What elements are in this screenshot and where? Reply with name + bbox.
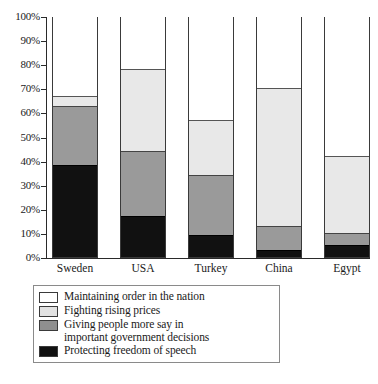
bar-segment[interactable] xyxy=(53,16,97,96)
y-axis-tick xyxy=(41,234,47,235)
y-axis-tick-label: 0% xyxy=(0,252,40,263)
bar-segment[interactable] xyxy=(189,235,233,257)
y-axis-tick-label: 90% xyxy=(0,35,40,46)
y-axis-tick-label: 50% xyxy=(0,132,40,143)
legend-label-line1: Maintaining order in the nation xyxy=(64,290,205,302)
bar-stack[interactable] xyxy=(188,17,234,258)
x-axis-line xyxy=(46,258,370,259)
bar-segment[interactable] xyxy=(325,233,369,245)
chart-legend: Maintaining order in the nationFighting … xyxy=(33,285,280,363)
bar-segment[interactable] xyxy=(121,151,165,216)
legend-swatch-icon xyxy=(39,306,58,317)
legend-item[interactable]: Fighting rising prices xyxy=(39,304,274,317)
y-axis-tick xyxy=(41,210,47,211)
x-axis-label-egypt: Egypt xyxy=(310,262,378,275)
bar-segment[interactable] xyxy=(257,250,301,257)
bar-segment[interactable] xyxy=(325,245,369,257)
y-axis-tick-label: 80% xyxy=(0,59,40,70)
y-axis-tick-label: 40% xyxy=(0,156,40,167)
stacked-bar-chart: 100%90%80%70%60%50%40%30%20%10%0% Sweden… xyxy=(0,0,378,278)
legend-item[interactable]: Maintaining order in the nation xyxy=(39,290,274,303)
legend-item[interactable]: Giving people more say inimportant gover… xyxy=(39,318,274,343)
y-axis-tick xyxy=(41,186,47,187)
bar-segment[interactable] xyxy=(257,16,301,88)
legend-label-line1: Protecting freedom of speech xyxy=(64,344,196,356)
legend-swatch-icon xyxy=(39,346,58,357)
x-axis-label-sweden: Sweden xyxy=(38,262,112,275)
legend-swatch-icon xyxy=(39,292,58,303)
legend-label: Maintaining order in the nation xyxy=(64,290,205,303)
legend-label: Giving people more say inimportant gover… xyxy=(64,318,209,343)
y-axis-tick xyxy=(41,138,47,139)
bar-segment[interactable] xyxy=(53,165,97,257)
bar-segment[interactable] xyxy=(325,156,369,233)
y-axis-tick xyxy=(41,17,47,18)
y-axis-tick xyxy=(41,89,47,90)
y-axis-tick-label: 30% xyxy=(0,180,40,191)
y-axis-tick-label: 100% xyxy=(0,11,40,22)
bar-segment[interactable] xyxy=(189,16,233,120)
legend-label-line2: important government decisions xyxy=(64,331,209,344)
y-axis-tick-label: 60% xyxy=(0,107,40,118)
bar-segment[interactable] xyxy=(53,106,97,165)
bar-segment[interactable] xyxy=(189,120,233,175)
bar-segment[interactable] xyxy=(189,175,233,235)
y-axis-tick xyxy=(41,258,47,259)
bar-segment[interactable] xyxy=(121,216,165,257)
x-axis-label-usa: USA xyxy=(106,262,180,275)
legend-item[interactable]: Protecting freedom of speech xyxy=(39,344,274,357)
bar-segment[interactable] xyxy=(121,69,165,151)
bar-segment[interactable] xyxy=(325,16,369,156)
y-axis-tick xyxy=(41,65,47,66)
legend-label: Fighting rising prices xyxy=(64,304,160,317)
legend-swatch-icon xyxy=(39,320,58,331)
y-axis-tick xyxy=(41,113,47,114)
y-axis-tick-label: 10% xyxy=(0,228,40,239)
bar-stack[interactable] xyxy=(324,17,370,258)
y-axis-tick-label: 20% xyxy=(0,204,40,215)
legend-label-line1: Fighting rising prices xyxy=(64,304,160,316)
bar-stack[interactable] xyxy=(120,17,166,258)
legend-label: Protecting freedom of speech xyxy=(64,344,196,357)
x-axis-label-china: China xyxy=(242,262,316,275)
y-axis-tick xyxy=(41,41,47,42)
bar-segment[interactable] xyxy=(53,96,97,107)
bar-segment[interactable] xyxy=(257,88,301,225)
x-axis-label-turkey: Turkey xyxy=(174,262,248,275)
legend-label-line1: Giving people more say in xyxy=(64,318,184,330)
bar-stack[interactable] xyxy=(52,17,98,258)
bar-stack[interactable] xyxy=(256,17,302,258)
y-axis-tick-label: 70% xyxy=(0,83,40,94)
bar-segment[interactable] xyxy=(257,226,301,250)
bar-segment[interactable] xyxy=(121,16,165,69)
y-axis-tick xyxy=(41,162,47,163)
